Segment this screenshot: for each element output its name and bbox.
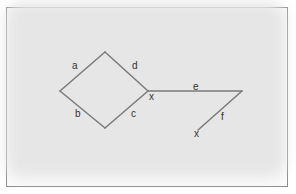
edge-f xyxy=(198,91,242,130)
edge-c xyxy=(105,91,148,128)
vertex-label-x-junction: x xyxy=(149,92,154,102)
edge-label-c: c xyxy=(131,109,136,119)
vertex-label-x-end: x xyxy=(194,129,199,139)
edge-b xyxy=(60,91,105,128)
edge-a xyxy=(60,52,105,91)
edge-label-d: d xyxy=(132,61,138,71)
edge-label-b: b xyxy=(75,109,81,119)
graph-diagram xyxy=(0,0,296,194)
edge-label-f: f xyxy=(221,112,224,122)
edge-d xyxy=(105,52,148,91)
edge-label-e: e xyxy=(193,82,199,92)
edge-label-a: a xyxy=(72,61,78,71)
